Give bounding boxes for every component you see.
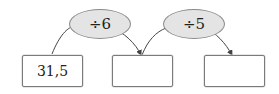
- operator-divide-by-5: ÷5: [163, 9, 225, 39]
- arrow-divide-by-5: [142, 28, 166, 55]
- operator-label: ÷6: [89, 15, 111, 33]
- operator-label: ÷5: [183, 15, 205, 33]
- start-value: 31,5: [37, 63, 68, 79]
- answer-input-1[interactable]: [113, 56, 172, 86]
- start-value-box: 31,5: [22, 55, 83, 87]
- arrow-divide-by-6: [52, 27, 72, 54]
- answer-box-1[interactable]: [112, 55, 173, 87]
- operator-divide-by-6: ÷6: [69, 9, 131, 39]
- answer-input-2[interactable]: [205, 56, 264, 86]
- division-chain-diagram: ÷6 ÷5 31,5: [0, 0, 279, 94]
- answer-box-2[interactable]: [204, 55, 265, 87]
